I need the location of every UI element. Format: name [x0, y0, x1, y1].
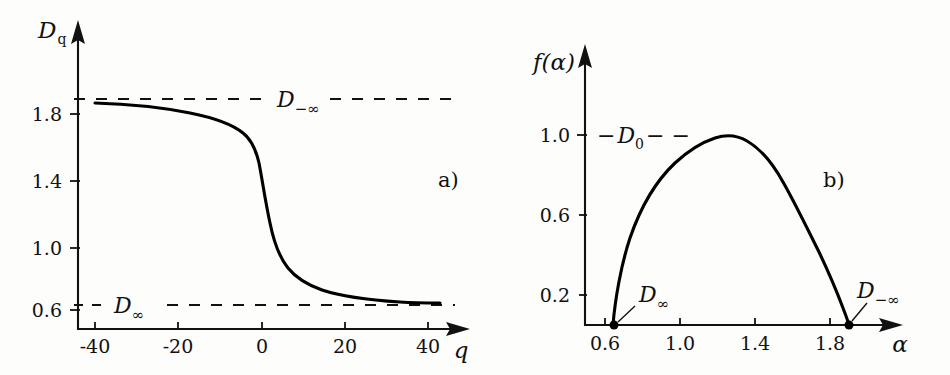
- d-minus-infinity-dot-icon: [845, 321, 854, 330]
- panel-a-tag-layer: a): [0, 0, 475, 375]
- panel-b-x-axis: [585, 318, 903, 332]
- panel-b-ytick-label-1: 0.6: [540, 204, 570, 226]
- panel-b-x-axis-label: α: [892, 331, 908, 357]
- panel-b-peak-annotation: −D0− −: [597, 123, 690, 152]
- panel-b-peak-label: −D0− −: [597, 123, 690, 152]
- panel-b-xtick-label-2: 1.4: [740, 332, 770, 354]
- panel-b-xtick-label-0: 0.6: [590, 332, 620, 354]
- panel-b-svg: 1.0 0.6 0.2 0.6 1.0 1.4 1.8 f(α) α −D0− …: [475, 0, 950, 375]
- panel-b-left-endpoint-label: D∞: [638, 282, 669, 313]
- d-infinity-dot-icon: [610, 321, 619, 330]
- panel-b-tag: b): [823, 168, 845, 192]
- panel-b-y-axis: [578, 44, 592, 326]
- panel-b-xtick-label-1: 1.0: [665, 332, 695, 354]
- panel-a-dq-vs-q: 1.8 1.4 1.0 0.6 -40 -20 0 20 40 Dq q: [0, 0, 475, 375]
- panel-b-ytick-label-0: 1.0: [540, 124, 570, 146]
- panel-b-falpha-spectrum: 1.0 0.6 0.2 0.6 1.0 1.4 1.8 f(α) α −D0− …: [475, 0, 950, 375]
- panel-b-y-axis-label: f(α): [531, 49, 575, 75]
- panel-b-xtick-label-3: 1.8: [815, 332, 845, 354]
- panel-b-right-endpoint-label: D−∞: [856, 278, 900, 309]
- figure-root: 1.8 1.4 1.0 0.6 -40 -20 0 20 40 Dq q: [0, 0, 950, 375]
- panel-b-ytick-label-2: 0.2: [540, 284, 570, 306]
- panel-a-tag: a): [438, 168, 459, 192]
